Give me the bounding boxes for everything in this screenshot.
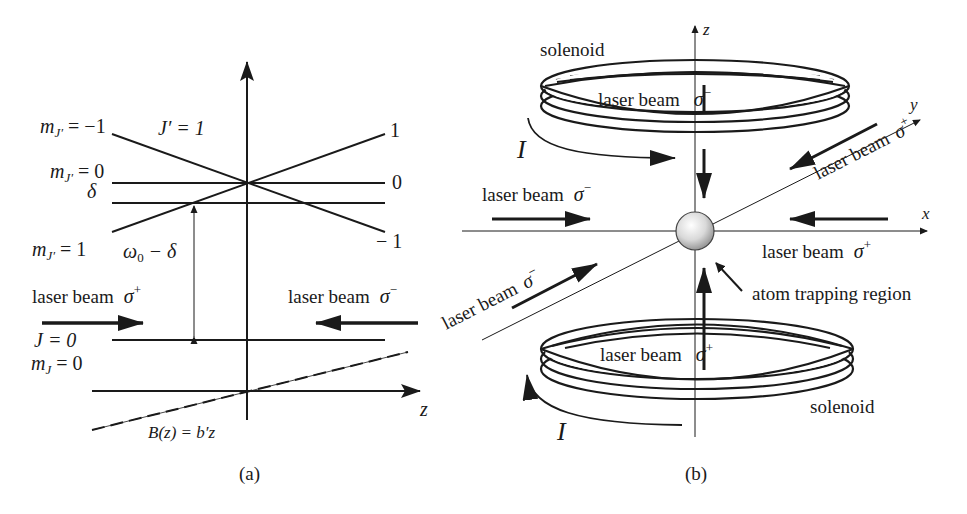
trap-label: atom trapping region [752,283,912,304]
y-axis-label: y [908,95,918,114]
beam-diag-upper-label: laser beamσ+ [808,113,915,184]
current-arrow-top [528,118,675,158]
field-label: B(z) = b′z [148,423,216,442]
panel-a: z mJ′ = −1 J′ = 1 mJ′ = 0 δ mJ′ = 1 ω0 −… [31,62,428,485]
beam-top-label: laser beamσ− [598,85,711,110]
figure-mot: z mJ′ = −1 J′ = 1 mJ′ = 0 δ mJ′ = 1 ω0 −… [0,0,967,514]
z-axis-label-b: z [702,20,710,39]
panel-b: x y z [436,20,930,485]
label-right-0: 0 [392,171,402,193]
atom-cloud [676,212,714,250]
label-right-1: 1 [390,119,400,141]
beam-diag-lower-label: laser beamσ− [436,263,543,334]
x-axis-label: x [921,204,930,223]
current-label-bottom: I [556,417,567,446]
label-J0: J = 0 [34,329,76,351]
caption-b: (b) [685,463,707,485]
beam-bottom-label: laser beamσ+ [600,340,713,365]
beam-x-right-label: laser beamσ+ [762,237,871,262]
label-omega-detuning: ω0 − δ [123,240,177,265]
label-mJ-0: mJ = 0 [31,352,83,377]
trap-pointer-arrow [716,263,742,291]
label-mJp-minus1: mJ′ = −1 [40,115,106,140]
solenoid-bottom-label: solenoid [810,396,875,417]
label-delta: δ [87,180,97,202]
beam-x-left-label: laser beamσ− [482,180,591,205]
current-label-top: I [516,135,527,164]
label-mJp-1: mJ′ = 1 [32,238,86,263]
label-Jprime: J′ = 1 [158,117,205,139]
z-axis-label: z [419,398,428,420]
beam-right-label: laser beamσ− [288,282,397,307]
label-right-minus1: − 1 [376,230,402,252]
beam-left-label: laser beamσ+ [32,282,141,307]
solenoid-top-label: solenoid [540,39,605,60]
caption-a: (a) [239,463,260,485]
